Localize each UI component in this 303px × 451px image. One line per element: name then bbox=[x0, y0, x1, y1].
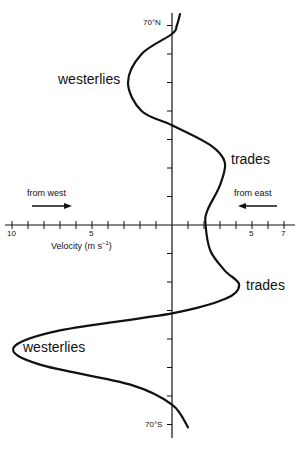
lat-label-70n: 70°N bbox=[143, 18, 161, 27]
label-westerlies-south: westerlies bbox=[23, 339, 85, 355]
velocity-profile-curve bbox=[13, 14, 239, 427]
label-trades-north: trades bbox=[231, 151, 270, 167]
wind-profile-chart bbox=[0, 0, 303, 451]
from-west-arrow-icon bbox=[32, 203, 72, 209]
x-tick-label-10: 10 bbox=[7, 229, 16, 238]
label-from-west: from west bbox=[27, 188, 66, 198]
lat-label-70s: 70°S bbox=[145, 420, 162, 429]
x-tick-label-5-left: 5 bbox=[89, 229, 93, 238]
x-tick-label-7: 7 bbox=[281, 229, 285, 238]
label-from-east: from east bbox=[234, 188, 272, 198]
from-east-arrow-icon bbox=[238, 203, 277, 209]
x-tick-label-5-right: 5 bbox=[249, 229, 253, 238]
label-westerlies-north: westerlies bbox=[58, 71, 120, 87]
x-axis-title: Velocity (m s−1) bbox=[51, 240, 112, 251]
label-trades-south: trades bbox=[246, 277, 285, 293]
